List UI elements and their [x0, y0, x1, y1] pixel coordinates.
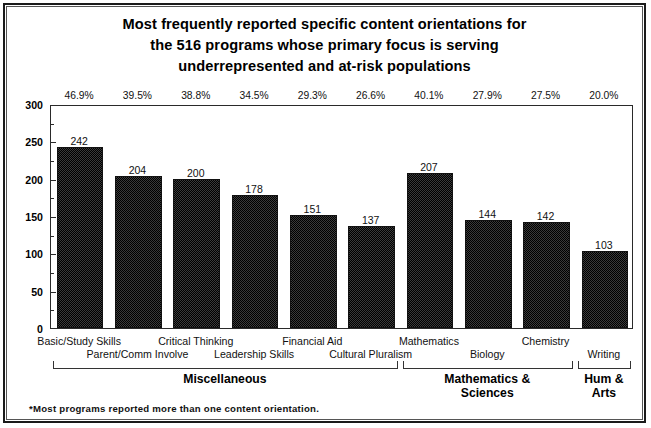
group-bracket-tick [630, 361, 631, 369]
bar-percent-label: 27.9% [455, 90, 519, 101]
x-axis-category-label: Parent/Comm Involve [77, 348, 197, 360]
x-axis-category-label: Writing [544, 348, 651, 360]
y-axis-minor-tick [50, 198, 54, 199]
group-bracket-line [578, 368, 630, 369]
bar-value-label: 178 [224, 183, 284, 195]
y-axis-label: 250 [25, 136, 43, 148]
y-axis-label: 50 [31, 286, 43, 298]
bar-percent-label: 20.0% [572, 90, 636, 101]
group-label: Miscellaneous [33, 372, 417, 386]
bar [57, 147, 104, 328]
y-axis: 050100150200250300 [5, 105, 50, 329]
group-bracket-line [53, 368, 397, 369]
bar-percent-label: 46.9% [47, 90, 111, 101]
y-axis-minor-tick [50, 236, 54, 237]
bar-value-label: 200 [166, 167, 226, 179]
bar-percent-label: 26.6% [339, 90, 403, 101]
y-axis-label: 300 [25, 99, 43, 111]
chart-title: Most frequently reported specific conten… [5, 14, 644, 77]
bar-value-label: 204 [107, 164, 167, 176]
y-axis-label: 0 [37, 323, 43, 335]
bar-value-label: 103 [574, 239, 634, 251]
y-axis-label: 200 [25, 174, 43, 186]
bar-percent-label: 34.5% [222, 90, 286, 101]
bar [348, 226, 395, 328]
x-axis-category-label: Biology [427, 348, 547, 360]
bar-value-label: 144 [457, 208, 517, 220]
group-bracket-tick [397, 361, 398, 369]
x-axis-category-label: Basic/Study Skills [19, 335, 139, 347]
y-axis-label: 150 [25, 211, 43, 223]
bar-percent-label: 39.5% [105, 90, 169, 101]
bar [523, 222, 570, 328]
group-bracket-line [403, 368, 572, 369]
y-axis-major-tick [50, 292, 56, 293]
bar-value-label: 207 [399, 161, 459, 173]
bar-percent-label: 27.5% [514, 90, 578, 101]
chart-outer-frame: Most frequently reported specific conten… [3, 3, 646, 423]
y-axis-minor-tick [50, 310, 54, 311]
group-label: Hum & Arts [558, 372, 650, 400]
y-axis-major-tick [50, 180, 56, 181]
bar [290, 215, 337, 328]
bar-value-label: 137 [341, 214, 401, 226]
title-line-3: underrepresented and at-risk populations [5, 56, 644, 77]
y-axis-minor-tick [50, 273, 54, 274]
x-axis-category-label: Leadership Skills [194, 348, 314, 360]
bar [465, 220, 512, 328]
title-line-1: Most frequently reported specific conten… [5, 14, 644, 35]
bar [582, 251, 629, 328]
x-axis-category-label: Cultural Pluralism [311, 348, 431, 360]
bar-value-label: 242 [49, 135, 109, 147]
chart-footnote: *Most programs reported more than one co… [29, 403, 319, 414]
title-line-2: the 516 programs whose primary focus is … [5, 35, 644, 56]
bar [232, 195, 279, 328]
bar [407, 173, 454, 328]
bar-value-label: 142 [516, 210, 576, 222]
x-axis-category-label: Mathematics [369, 335, 489, 347]
y-axis-major-tick [50, 254, 56, 255]
y-axis-minor-tick [50, 124, 54, 125]
group-bracket-axis [5, 361, 651, 371]
x-axis-category-label: Chemistry [486, 335, 606, 347]
group-bracket-tick [572, 361, 573, 369]
group-bracket-tick [53, 361, 54, 369]
y-axis-minor-tick [50, 161, 54, 162]
group-bracket-tick [578, 361, 579, 369]
group-bracket-tick [403, 361, 404, 369]
bar [173, 179, 220, 328]
y-axis-label: 100 [25, 248, 43, 260]
bar-percent-label: 38.8% [164, 90, 228, 101]
bar-value-label: 151 [282, 203, 342, 215]
y-axis-major-tick [50, 217, 56, 218]
x-axis-category-label: Critical Thinking [136, 335, 256, 347]
bar-percent-label: 29.3% [280, 90, 344, 101]
x-axis-category-label: Financial Aid [252, 335, 372, 347]
bar-percent-label: 40.1% [397, 90, 461, 101]
bar [115, 176, 162, 328]
